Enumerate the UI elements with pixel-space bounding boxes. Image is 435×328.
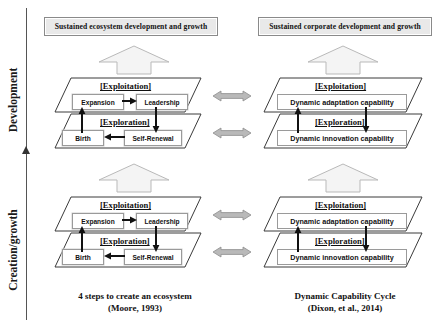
right-dev-exploitation-label: [Exploitation]	[315, 81, 366, 91]
right-banner-text: Sustained corporate development and grow…	[269, 22, 421, 31]
left-block-up-arrow-top	[98, 45, 170, 75]
left-creation-arrow-birth-to-expansion	[78, 226, 86, 252]
left-creation-exploitation-label: [Exploitation]	[100, 200, 151, 210]
right-dev-arrow-adaptation-to-innovation	[362, 107, 370, 133]
right-creation-exploitation-label: [Exploitation]	[315, 200, 366, 210]
axis-label-creation-growth: Creation/growth	[7, 175, 19, 325]
left-banner-text: Sustained ecosystem development and grow…	[55, 22, 208, 31]
right-caption-line2: (Dixon, et al., 2014)	[255, 302, 435, 314]
vertical-axis-line	[26, 8, 27, 320]
left-block-up-arrow-bottom	[98, 163, 170, 193]
left-dev-arrow-leadership-to-selfrenewal	[152, 107, 160, 133]
right-block-up-arrow-bottom	[307, 163, 379, 193]
diagram-canvas: Development Creation/growth Sustained ec…	[0, 0, 435, 328]
left-dev-exploration-label: [Exploration]	[100, 117, 150, 127]
right-caption-line1: Dynamic Capability Cycle	[255, 290, 435, 302]
left-dev-arrow-birth-to-expansion	[78, 107, 86, 133]
right-creation-arrow-innovation-to-adaptation	[294, 226, 302, 252]
left-creation-node-leadership: Leadership	[136, 213, 188, 229]
connector-double-arrow-bottom	[213, 246, 251, 258]
left-caption-line2: (Moore, 1993)	[45, 302, 225, 314]
connector-double-arrow-third	[213, 209, 251, 221]
connector-double-arrow-top	[213, 90, 251, 102]
left-caption-line1: 4 steps to create an ecosystem	[45, 290, 225, 302]
left-creation-arrow-leadership-to-selfrenewal	[152, 226, 160, 252]
left-creation-arrow-expansion-to-leadership	[122, 216, 138, 224]
right-caption: Dynamic Capability Cycle (Dixon, et al.,…	[255, 290, 435, 314]
left-caption: 4 steps to create an ecosystem (Moore, 1…	[45, 290, 225, 314]
connector-double-arrow-second	[213, 127, 251, 139]
left-creation-exploration-label: [Exploration]	[100, 236, 150, 246]
left-dev-arrow-expansion-to-leadership	[122, 97, 138, 105]
right-dev-arrow-innovation-to-adaptation	[294, 107, 302, 133]
up-arrow-icon	[22, 146, 30, 154]
right-banner: Sustained corporate development and grow…	[258, 17, 432, 36]
left-dev-arrow-selfrenewal-to-birth	[103, 133, 125, 141]
right-creation-arrow-adaptation-to-innovation	[362, 226, 370, 252]
right-creation-exploration-label: [Exploration]	[315, 236, 365, 246]
axis-label-development: Development	[7, 25, 19, 175]
left-dev-node-leadership: Leadership	[136, 94, 188, 110]
right-block-up-arrow-top	[307, 45, 379, 75]
right-dev-exploration-label: [Exploration]	[315, 117, 365, 127]
left-dev-exploitation-label: [Exploitation]	[100, 81, 151, 91]
left-creation-arrow-selfrenewal-to-birth	[103, 252, 125, 260]
left-banner: Sustained ecosystem development and grow…	[44, 17, 218, 36]
